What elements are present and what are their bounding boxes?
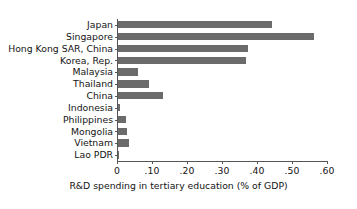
bar-row: Vietnam (117, 137, 327, 149)
x-tick (117, 161, 118, 164)
x-tick (257, 161, 258, 164)
x-tick-label: .20 (180, 165, 195, 176)
bar (118, 92, 163, 99)
bar-row: Korea, Rep. (117, 55, 327, 67)
category-tick (115, 108, 118, 109)
category-label: Indonesia (68, 102, 113, 114)
bar (118, 80, 149, 87)
category-tick (115, 84, 118, 85)
bar (118, 104, 120, 111)
bar (118, 68, 138, 75)
category-tick (115, 96, 118, 97)
bar (118, 33, 314, 40)
x-tick-label: .40 (250, 165, 265, 176)
category-tick (115, 131, 118, 132)
bar (118, 57, 246, 64)
bar-row: Japan (117, 19, 327, 31)
bar (118, 139, 129, 146)
category-label: Philippines (63, 114, 113, 126)
category-tick (115, 120, 118, 121)
category-label: Japan (87, 19, 113, 31)
category-tick (115, 143, 118, 144)
bar-row: China (117, 90, 327, 102)
category-tick (115, 72, 118, 73)
category-tick (115, 60, 118, 61)
category-label: Lao PDR (74, 149, 113, 161)
category-tick (115, 155, 118, 156)
bar-row: Lao PDR (117, 149, 327, 161)
category-label: China (86, 90, 113, 102)
bar-row: Singapore (117, 31, 327, 43)
x-tick-label: .10 (145, 165, 160, 176)
category-tick (115, 49, 118, 50)
x-tick-label: .50 (285, 165, 300, 176)
bar (118, 116, 126, 123)
category-label: Vietnam (74, 137, 113, 149)
category-label: Singapore (66, 31, 113, 43)
category-label: Thailand (73, 78, 113, 90)
bar-row: Hong Kong SAR, China (117, 43, 327, 55)
bar-row: Malaysia (117, 66, 327, 78)
category-tick (115, 25, 118, 26)
bar-chart-figure: JapanSingaporeHong Kong SAR, ChinaKorea,… (0, 0, 357, 209)
x-tick (292, 161, 293, 164)
category-label: Malaysia (72, 66, 113, 78)
bar-row: Thailand (117, 78, 327, 90)
x-tick (187, 161, 188, 164)
plot-area: JapanSingaporeHong Kong SAR, ChinaKorea,… (117, 19, 327, 161)
x-tick (152, 161, 153, 164)
bar-row: Indonesia (117, 102, 327, 114)
x-tick (222, 161, 223, 164)
bar-row: Mongolia (117, 126, 327, 138)
category-label: Hong Kong SAR, China (8, 43, 113, 55)
bar (118, 45, 248, 52)
category-label: Mongolia (71, 126, 113, 138)
bar (118, 151, 119, 158)
x-tick-label: 0 (114, 165, 120, 176)
category-tick (115, 37, 118, 38)
x-axis-title: R&D spending in tertiary education (% of… (0, 180, 357, 191)
bar (118, 21, 272, 28)
x-tick (327, 161, 328, 164)
x-tick-label: .60 (320, 165, 335, 176)
bar (118, 128, 127, 135)
x-tick-label: .30 (215, 165, 230, 176)
bar-row: Philippines (117, 114, 327, 126)
category-label: Korea, Rep. (60, 55, 113, 67)
